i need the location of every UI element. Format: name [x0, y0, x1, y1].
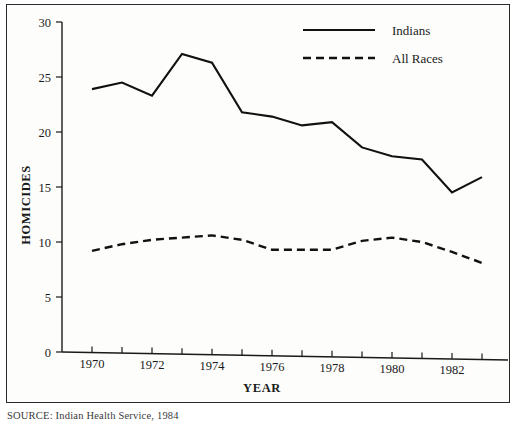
legend-label-all-races: All Races	[392, 51, 443, 66]
line-chart: 051015202530 197019721974197619781980198…	[0, 0, 525, 421]
x-axis-title: YEAR	[243, 381, 281, 395]
x-tick-label: 1974	[200, 359, 226, 373]
x-axis-line	[62, 352, 508, 360]
legend-label-indians: Indians	[392, 23, 430, 38]
y-tick-label: 25	[39, 71, 52, 85]
source-note: SOURCE: Indian Health Service, 1984	[7, 410, 179, 421]
series-line-all-races	[92, 235, 482, 263]
y-tick-label: 20	[39, 126, 52, 140]
figure-container: 051015202530 197019721974197619781980198…	[0, 0, 525, 421]
y-tick-label: 0	[45, 346, 51, 360]
data-series-group	[92, 54, 482, 263]
axes-group	[62, 22, 508, 360]
x-tick-label: 1978	[320, 361, 345, 375]
chart-legend: IndiansAll Races	[303, 23, 443, 66]
x-tick-label: 1972	[140, 358, 165, 372]
y-tick-label: 30	[39, 16, 52, 30]
y-axis-title: HOMICIDES	[19, 165, 33, 245]
y-tick-label: 10	[39, 236, 52, 250]
series-line-indians	[92, 54, 482, 193]
y-axis-ticks	[56, 22, 62, 352]
x-axis-tick-labels: 1970197219741976197819801982	[80, 357, 465, 377]
y-tick-label: 15	[39, 181, 52, 195]
x-tick-label: 1976	[260, 360, 285, 374]
x-tick-label: 1982	[440, 363, 465, 377]
y-axis-tick-labels: 051015202530	[39, 16, 52, 360]
x-tick-label: 1980	[380, 362, 405, 376]
x-tick-label: 1970	[80, 357, 105, 371]
y-tick-label: 5	[45, 291, 51, 305]
